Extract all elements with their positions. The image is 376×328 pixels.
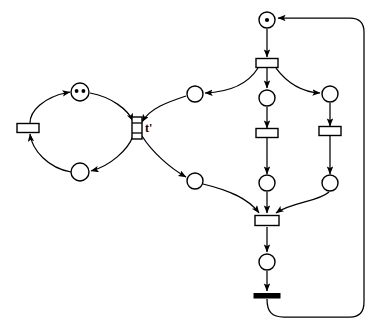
transition-fork[interactable] (256, 59, 278, 68)
place-bottom[interactable] (259, 254, 275, 270)
arc-tprime-to-pleft-bot (91, 136, 133, 171)
place-left-bottom[interactable] (71, 163, 89, 181)
place-right-upper[interactable] (322, 86, 338, 102)
place-mid-lower[interactable] (187, 173, 203, 189)
arc-tfork-to-pmid-upper (205, 68, 258, 93)
place-centre-lower[interactable] (259, 175, 275, 191)
arc-tsink-feedback-to-ptop (267, 18, 364, 317)
place-centre-upper[interactable] (259, 90, 275, 106)
token-top-1 (265, 18, 269, 22)
arc-tleft-to-pleft-top (30, 92, 70, 123)
petri-net-graphic (0, 0, 376, 328)
arc-pleft-bot-to-tleft (30, 134, 71, 172)
transition-t-prime[interactable] (132, 117, 142, 139)
token-left-top-1 (75, 89, 79, 93)
arc-pmid-lower-to-tjoin (203, 184, 259, 213)
arc-pmid-upper-to-tprime (142, 96, 186, 122)
token-left-top-2 (82, 89, 86, 93)
arc-tprime-to-pmid-lower (142, 136, 186, 177)
transition-right-mid[interactable] (319, 127, 341, 136)
place-mid-upper[interactable] (187, 86, 203, 102)
transition-centre-mid[interactable] (256, 129, 278, 138)
arc-tfork-to-pright-up (276, 68, 320, 93)
place-left-top[interactable] (71, 83, 89, 101)
node-layer (17, 12, 341, 298)
transition-join[interactable] (255, 216, 279, 226)
petri-net-canvas: t' (0, 0, 376, 328)
transition-sink-bar[interactable] (254, 294, 280, 299)
place-right-lower[interactable] (322, 175, 338, 191)
arc-pright-low-to-tjoin (276, 192, 329, 213)
transition-t-prime-label: t' (145, 121, 152, 136)
arc-pleft-top-to-tprime (90, 93, 133, 121)
transition-left[interactable] (17, 124, 39, 133)
